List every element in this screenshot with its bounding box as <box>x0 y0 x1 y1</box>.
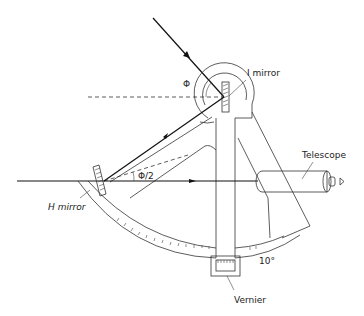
vernier-label: Vernier <box>234 295 266 305</box>
phi-angle-arc <box>206 82 212 97</box>
index-arm <box>194 63 254 258</box>
telescope <box>256 171 344 192</box>
eye-icon <box>340 178 344 185</box>
i-mirror-label: I mirror <box>247 68 280 78</box>
phi-half-label: Φ/2 <box>138 171 154 181</box>
i-mirror-hatch <box>223 84 228 106</box>
i-mirror-leader <box>229 80 246 96</box>
h-mirror-label: H mirror <box>48 202 87 212</box>
phi-label: Φ <box>183 79 190 89</box>
phi-half-arc <box>133 172 134 181</box>
graduated-arc <box>78 181 300 258</box>
scale-mark-label: 10° <box>259 256 275 266</box>
vernier <box>211 256 240 276</box>
reflected-ray <box>104 97 224 181</box>
arrow-icon <box>189 179 196 183</box>
sextant-diagram: Φ I mirror <box>0 0 364 316</box>
telescope-leader <box>302 162 313 179</box>
telescope-label: Telescope <box>301 150 346 160</box>
h-mirror-leader <box>80 190 90 198</box>
vernier-leader <box>227 276 234 290</box>
